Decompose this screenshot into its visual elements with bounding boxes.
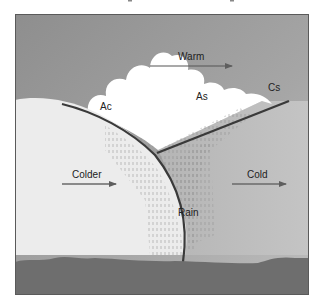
label-cirrostratus: Cs xyxy=(268,82,280,93)
label-rain: Rain xyxy=(178,207,199,218)
label-warm: Warm xyxy=(178,51,204,62)
warm-front-diagram: Warm Ac As Cs Colder Cold Rain xyxy=(0,0,320,305)
ground xyxy=(15,257,309,295)
label-cold: Cold xyxy=(247,169,268,180)
cropped-caption-remnant xyxy=(128,0,234,2)
label-altostratus: As xyxy=(196,91,208,102)
label-colder: Colder xyxy=(72,169,102,180)
label-altocumulus: Ac xyxy=(100,101,112,112)
